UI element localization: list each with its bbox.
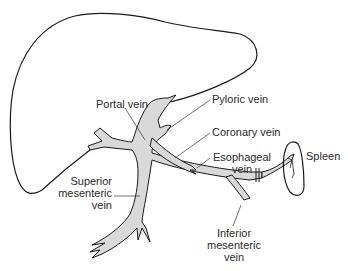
label-inferior-mesenteric-vein: Inferior mesenteric vein xyxy=(203,227,265,263)
label-superior-line3: vein xyxy=(56,199,112,211)
label-spleen: Spleen xyxy=(306,150,340,162)
leader-inferior-mesenteric xyxy=(233,205,241,226)
label-inferior-line2: mesenteric xyxy=(203,239,265,251)
portal-system-diagram xyxy=(0,0,348,271)
leader-coronary-vein xyxy=(175,133,210,158)
label-superior-mesenteric-vein: Superior mesenteric vein xyxy=(56,175,112,211)
label-coronary-vein: Coronary vein xyxy=(212,126,280,138)
label-esophageal-vein: Esophageal vein xyxy=(210,151,274,175)
spleen-outline xyxy=(283,142,304,195)
label-esophageal-line1: Esophageal xyxy=(210,151,274,163)
label-superior-line2: mesenteric xyxy=(56,187,112,199)
leader-pyloric-vein xyxy=(167,100,210,130)
label-inferior-line1: Inferior xyxy=(203,227,265,239)
label-esophageal-line2: vein xyxy=(210,163,274,175)
label-inferior-line3: vein xyxy=(203,251,265,263)
label-pyloric-vein: Pyloric vein xyxy=(212,93,268,105)
label-portal-vein: Portal vein xyxy=(96,98,148,110)
label-superior-line1: Superior xyxy=(56,175,112,187)
